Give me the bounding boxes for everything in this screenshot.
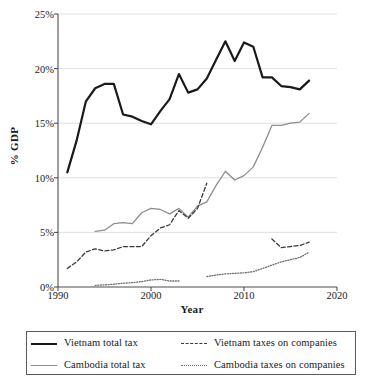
- y-tick-10: 10%: [20, 172, 54, 183]
- y-axis-tick-labels: 25% 20% 15% 10% 5% 0%: [16, 0, 54, 322]
- x-tick-1990: 1990: [38, 290, 78, 301]
- y-tick-25: 25%: [20, 9, 54, 20]
- chart-figure: 25% 20% 15% 10% 5% 0% 1990 2000 2010 202…: [0, 0, 384, 384]
- dotted-line-icon: [181, 360, 207, 370]
- legend-label-cambodia-taxes-on-companies: Cambodia taxes on companies: [214, 360, 345, 371]
- x-tick-2000: 2000: [131, 290, 171, 301]
- y-axis-title: % GDP: [8, 106, 20, 186]
- series-line-vietnam-taxes-on-companies-seg1: [67, 183, 207, 268]
- y-tick-15: 15%: [20, 118, 54, 129]
- legend-label-vietnam-taxes-on-companies: Vietnam taxes on companies: [214, 338, 337, 349]
- y-tick-20: 20%: [20, 63, 54, 74]
- plot-area: [0, 0, 384, 322]
- series-line-vietnam-total-tax: [67, 41, 309, 172]
- legend-item-cambodia-total-tax: Cambodia total tax: [31, 360, 181, 371]
- legend-item-cambodia-taxes-on-companies: Cambodia taxes on companies: [181, 360, 361, 371]
- solid-thick-line-icon: [31, 338, 57, 348]
- series-line-cambodia-taxes-on-companies-seg2: [207, 252, 309, 277]
- x-axis-title: Year: [0, 303, 384, 315]
- x-tick-2010: 2010: [224, 290, 264, 301]
- x-tick-2020: 2020: [317, 290, 357, 301]
- dashed-line-icon: [181, 338, 207, 348]
- chart-legend: Vietnam total tax Vietnam taxes on compa…: [26, 331, 356, 375]
- legend-label-vietnam-total-tax: Vietnam total tax: [64, 338, 138, 349]
- legend-label-cambodia-total-tax: Cambodia total tax: [64, 360, 146, 371]
- legend-item-vietnam-total-tax: Vietnam total tax: [31, 338, 181, 349]
- line-chart-svg: [0, 0, 384, 322]
- solid-thin-line-icon: [31, 360, 57, 370]
- series-line-cambodia-taxes-on-companies-seg1: [95, 279, 179, 285]
- series-line-vietnam-taxes-on-companies-seg2: [272, 239, 309, 248]
- series-line-cambodia-total-tax: [95, 113, 309, 231]
- y-tick-5: 5%: [20, 227, 54, 238]
- legend-item-vietnam-taxes-on-companies: Vietnam taxes on companies: [181, 338, 361, 349]
